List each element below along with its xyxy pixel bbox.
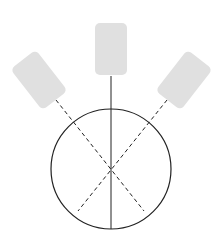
left-pad [10,50,67,111]
center-pad [95,23,127,75]
left-dashed-line [56,100,144,211]
diagram-canvas [0,0,224,236]
right-pad [155,50,212,111]
right-dashed-line [78,100,167,211]
